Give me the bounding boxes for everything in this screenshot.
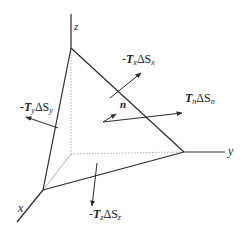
- y-axis-label: y: [227, 144, 234, 158]
- traction-y-label: -TyΔSy: [20, 100, 53, 115]
- edge-front-right: [43, 152, 184, 190]
- hidden-edge-x: [43, 154, 71, 190]
- traction-y-arrow: [26, 117, 58, 128]
- traction-z-arrow: [92, 163, 97, 206]
- traction-z-label: -TzΔSz: [89, 207, 122, 222]
- traction-n-label: TnΔSn: [185, 91, 215, 106]
- x-axis-label: x: [17, 201, 24, 215]
- z-axis-label: z: [73, 20, 79, 32]
- tetrahedron-diagram: z y x -TxΔSx TnΔSn n -TyΔSy -TzΔSz: [0, 0, 248, 238]
- traction-x-arrow: [110, 73, 141, 98]
- traction-x-label: -TxΔSx: [122, 52, 155, 67]
- hidden-edge-y: [71, 152, 184, 154]
- edge-top-front: [43, 48, 71, 190]
- normal-label: n: [120, 98, 126, 110]
